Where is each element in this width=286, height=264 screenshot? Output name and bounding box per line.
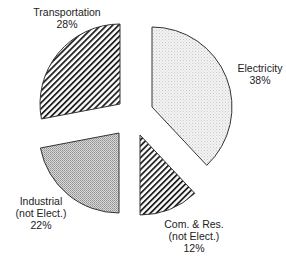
slice-label: Transportation28%: [33, 6, 100, 30]
pie-slice-com-res-not-elect: [140, 135, 195, 215]
slice-label-line: 28%: [33, 18, 100, 30]
slice-label-line: Transportation: [33, 6, 100, 18]
slice-label-line: 12%: [164, 242, 224, 254]
slice-label: Industrial(not Elect.)22%: [16, 195, 67, 231]
slice-label-line: Com. & Res.: [164, 218, 224, 230]
slice-label-line: 38%: [238, 74, 283, 86]
pie-slice-electricity: [152, 27, 232, 165]
slice-label-line: 22%: [16, 219, 67, 231]
slice-label-line: Electricity: [238, 62, 283, 74]
slice-label-line: (not Elect.): [16, 207, 67, 219]
slice-label-line: Industrial: [16, 195, 67, 207]
slice-label-line: (not Elect.): [164, 230, 224, 242]
pie-slice-transportation: [40, 24, 120, 119]
slice-label: Electricity38%: [238, 62, 283, 86]
slice-label: Com. & Res.(not Elect.)12%: [164, 218, 224, 254]
